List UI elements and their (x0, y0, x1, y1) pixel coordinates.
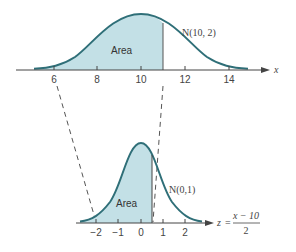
top-distribution-label: N(10, 2) (182, 27, 216, 39)
top-tick-label: 8 (94, 74, 100, 85)
top-area-label: Area (111, 45, 133, 56)
bottom-tick-label: −1 (112, 227, 124, 238)
z-formula: z = x − 10 2 (216, 210, 260, 236)
top-tick-label: 12 (179, 74, 191, 85)
top-axis-arrow-icon (261, 67, 270, 73)
top-tick-label: 14 (223, 74, 235, 85)
bottom-shaded-area (80, 143, 152, 223)
equals-sign: = (225, 217, 231, 228)
mapping-line-6-to-minus2 (57, 86, 96, 222)
bottom-tick-label: 2 (182, 227, 188, 238)
bottom-distribution-label: N(0,1) (169, 184, 195, 196)
bottom-area-label: Area (116, 198, 138, 209)
bottom-tick-label: −2 (90, 227, 102, 238)
bottom-tick-label: 0 (138, 227, 144, 238)
normal-standardization-diagram: 6 8 10 12 14 x Area N(10, 2) −2 −1 0 1 2… (0, 0, 296, 252)
mapping-line-11-to-half (153, 86, 163, 222)
z-variable: z (216, 217, 221, 228)
bottom-plot: −2 −1 0 1 2 Area N(0,1) z = x − 10 2 (76, 143, 260, 238)
top-tick-label: 10 (135, 74, 147, 85)
top-plot: 6 8 10 12 14 x Area N(10, 2) (16, 14, 279, 85)
top-tick-label: 6 (51, 74, 57, 85)
top-shaded-area (34, 14, 163, 70)
formula-denominator: 2 (244, 225, 249, 236)
bottom-tick-label: 1 (160, 227, 166, 238)
formula-numerator: x − 10 (232, 210, 259, 221)
top-axis-variable: x (273, 64, 279, 75)
bottom-axis-arrow-icon (205, 220, 214, 226)
